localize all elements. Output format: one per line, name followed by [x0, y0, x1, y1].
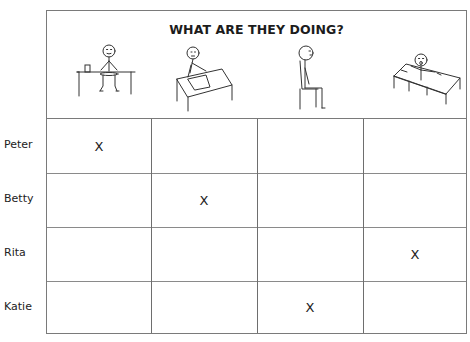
grid-cell[interactable] [151, 281, 257, 333]
writing-at-desk-icon [174, 43, 244, 115]
grid-cell[interactable] [151, 227, 257, 281]
grid-cell[interactable] [363, 119, 467, 173]
grid-cell[interactable] [363, 281, 467, 333]
cell-mark: X [200, 193, 209, 208]
eating-at-table-icon [73, 41, 153, 107]
grid-cell[interactable] [257, 173, 363, 227]
row-label-katie: Katie [4, 300, 32, 313]
worksheet-title: WHAT ARE THEY DOING? [47, 22, 466, 37]
grid-cell[interactable] [47, 173, 151, 227]
grid-cell[interactable]: X [47, 119, 151, 173]
grid-cell[interactable] [257, 227, 363, 281]
grid-cell[interactable]: X [257, 281, 363, 333]
grid-cell[interactable] [151, 119, 257, 173]
activity-grid: X X X X [46, 118, 467, 334]
waking-up-in-bed-icon [391, 51, 463, 105]
grid-cell[interactable] [47, 281, 151, 333]
row-label-peter: Peter [4, 138, 33, 151]
row-label-betty: Betty [4, 192, 33, 205]
cell-mark: X [411, 247, 420, 262]
row-label-rita: Rita [4, 246, 26, 259]
sitting-on-chair-icon [294, 43, 339, 115]
grid-cell[interactable] [257, 119, 363, 173]
cell-mark: X [95, 139, 104, 154]
grid-cell[interactable] [363, 173, 467, 227]
cell-mark: X [306, 300, 315, 315]
grid-cell[interactable] [47, 227, 151, 281]
grid-cell[interactable]: X [151, 173, 257, 227]
activity-header: WHAT ARE THEY DOING? [46, 10, 467, 118]
worksheet: WHAT ARE THEY DOING? [0, 0, 470, 342]
grid-cell[interactable]: X [363, 227, 467, 281]
